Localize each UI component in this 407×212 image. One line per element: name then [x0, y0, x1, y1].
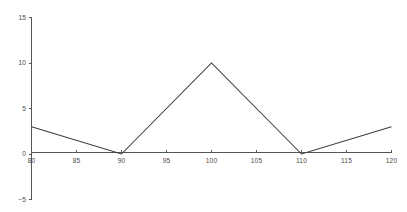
x-axis-tick-label: 90	[118, 157, 126, 164]
x-axis-tick-label: 80	[28, 157, 36, 164]
plot-background	[0, 0, 407, 212]
y-axis-tick-label: 10	[18, 59, 26, 66]
x-axis-tick-label: 100	[206, 157, 218, 164]
x-axis-tick-label: 110	[296, 157, 307, 164]
chart-container: 151050−580859095100105110115120	[0, 0, 407, 212]
x-axis-tick-label: 95	[163, 157, 171, 164]
x-axis-tick-label: 115	[341, 157, 352, 164]
y-axis-tick-label: 5	[22, 105, 26, 112]
x-axis-tick-label: 120	[386, 157, 398, 164]
line-chart-plot: 151050−580859095100105110115120	[0, 0, 407, 212]
y-axis-tick-label: 15	[18, 14, 26, 21]
x-axis-tick-label: 85	[73, 157, 81, 164]
x-axis-tick-label: 105	[251, 157, 263, 164]
y-axis-tick-label: 0	[22, 150, 26, 157]
y-axis-tick-label: −5	[18, 196, 26, 203]
